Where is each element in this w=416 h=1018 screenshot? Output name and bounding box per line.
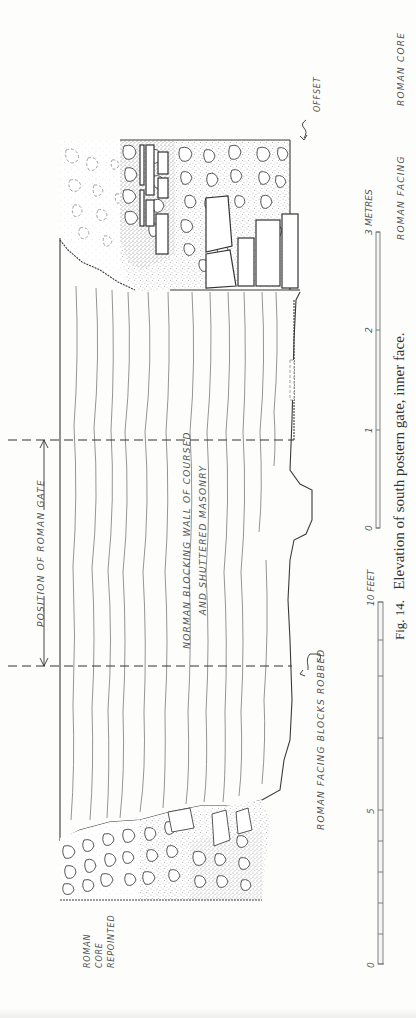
svg-text:3: 3: [364, 229, 374, 235]
svg-text:5: 5: [366, 808, 376, 814]
svg-text:AND SHUTTERED MASONRY: AND SHUTTERED MASONRY: [198, 464, 208, 616]
roman-core-bottom: [60, 800, 270, 900]
label-position-of-roman-gate: POSITION OF ROMAN GATE: [36, 479, 46, 627]
label-roman-core-repointed: ROMAN CORE REPOINTED: [83, 915, 116, 968]
svg-text:0: 0: [366, 962, 376, 968]
caption-text: Elevation of south postern gate, inner f…: [391, 332, 407, 589]
coursing-lines: [71, 286, 277, 820]
svg-text:2: 2: [364, 327, 374, 333]
svg-text:ROMAN FACING BLOCKS ROBBED: ROMAN FACING BLOCKS ROBBED: [316, 649, 326, 830]
elevation-drawing: ROMAN CORE ROMAN FACING OFFSET POSITION …: [0, 0, 416, 1018]
imperial-scale: 0 5 10 FEET: [366, 568, 384, 968]
norman-blocking-wall: [8, 238, 312, 840]
svg-text:ROMAN: ROMAN: [83, 934, 92, 968]
svg-text:OFFSET: OFFSET: [313, 76, 322, 112]
label-roman-facing: ROMAN FACING: [396, 155, 406, 240]
svg-text:CORE: CORE: [95, 942, 104, 968]
svg-text:10 FEET: 10 FEET: [366, 568, 376, 606]
metric-scale: 0 1 2 3 METRES: [364, 189, 380, 531]
svg-text:ROMAN CORE: ROMAN CORE: [396, 32, 406, 106]
label-norman-blocking-wall: NORMAN BLOCKING WALL OF COURSED AND SHUT…: [182, 431, 208, 648]
roman-facing-top: [120, 140, 300, 292]
caption-prefix: Fig. 14.: [392, 600, 407, 640]
figure-caption: Fig. 14. Elevation of south postern gate…: [389, 332, 408, 640]
svg-text:REPOINTED: REPOINTED: [107, 915, 116, 968]
svg-text:NORMAN BLOCKING WALL OF COURSE: NORMAN BLOCKING WALL OF COURSED: [182, 431, 192, 648]
label-roman-core: ROMAN CORE: [396, 32, 406, 106]
label-roman-facing-blocks-robbed: ROMAN FACING BLOCKS ROBBED: [300, 649, 326, 830]
label-offset: OFFSET: [300, 76, 322, 140]
svg-text:ROMAN FACING: ROMAN FACING: [396, 155, 406, 240]
svg-text:POSITION OF ROMAN GATE: POSITION OF ROMAN GATE: [36, 479, 46, 627]
svg-text:METRES: METRES: [364, 189, 374, 226]
svg-text:1: 1: [364, 427, 374, 433]
svg-text:0: 0: [364, 525, 374, 531]
svg-text:Fig. 14. Elevation of so: Fig. 14. Elevation of south postern gate…: [389, 332, 408, 640]
figure-page: ROMAN CORE ROMAN FACING OFFSET POSITION …: [0, 0, 416, 1018]
